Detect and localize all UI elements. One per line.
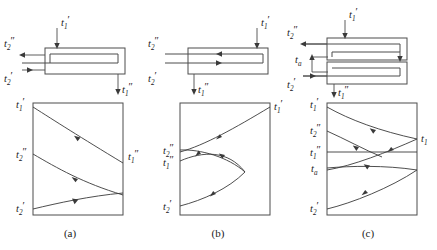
panel-c-curve-t2-prime-marker <box>362 190 368 195</box>
panel-c-pass-connector-arrowhead <box>397 56 402 62</box>
panel-a-chart-label-t1-dprime: t1″ <box>128 148 139 164</box>
panel-c-lower-shell <box>327 62 407 84</box>
panel-c-chart-label-t1-prime: t1′ <box>310 96 319 112</box>
panel-c-inlet-lower-arrowhead <box>310 73 316 78</box>
panel-b-caption: (b) <box>212 227 225 240</box>
panel-a-outlet-bottom-arrowhead <box>115 89 120 95</box>
panel-b-label-inlet-top: t1′ <box>261 14 270 30</box>
panel-b-outlet-bottom-arrowhead <box>191 89 196 95</box>
panel-a-label-inlet-lower: t2′ <box>4 70 13 86</box>
panel-a: t1′ t2″ t2′ t1″ <box>4 14 139 240</box>
panel-c-chart-label-t1: t1 <box>421 133 428 147</box>
panel-a-inlet-lower-arrowhead <box>27 67 33 72</box>
panel-b: t1′ t2″ t2′ t1″ <box>148 14 283 240</box>
panel-a-label-outlet-bottom: t1″ <box>122 81 133 97</box>
panel-c-chart-box <box>327 103 417 215</box>
panel-a-chart-label-t1-prime: t1′ <box>16 96 25 112</box>
panel-c-chart: t1′ t2″ t1″ ta t2′ t1 <box>310 96 428 216</box>
panel-c-curve-t1-prime-marker <box>370 128 376 133</box>
panel-c-curve-t1-branch <box>327 139 417 170</box>
panel-a-label-outlet-upper: t2″ <box>4 35 15 51</box>
panel-b-label-outlet-bottom: t1″ <box>198 81 209 97</box>
panel-c-chart-label-t2-prime: t2′ <box>310 200 319 216</box>
panel-c-chart-label-t2-dprime: t2″ <box>310 122 321 138</box>
panel-c-label-outlet-bottom: t1″ <box>338 84 349 100</box>
panel-b-schematic: t1′ t2″ t2′ t1″ <box>148 14 270 97</box>
panel-b-chart-label-t2-prime: t2′ <box>163 198 172 214</box>
panel-a-schematic: t1′ t2″ t2′ t1″ <box>4 14 133 97</box>
panel-b-label-inlet-lower: t2′ <box>148 70 157 86</box>
panel-a-curve-t1 <box>33 107 123 163</box>
panel-a-chart-label-t2-prime: t2′ <box>16 200 25 216</box>
panel-c-upper-tube <box>303 44 400 57</box>
panel-b-flow-upper-arrowhead <box>216 51 222 56</box>
panel-a-chart: t1′ t2″ t2′ t1″ <box>16 96 139 216</box>
panel-c-label-inlet-lower: t2′ <box>287 76 296 92</box>
panel-b-curve-t2-lower <box>180 172 245 206</box>
panel-a-curve-t2-in <box>33 193 123 209</box>
panel-b-shell-outline <box>188 48 268 74</box>
panel-c-curve-t1-prime <box>327 107 417 139</box>
panel-b-tube-path <box>165 54 263 63</box>
panel-a-label-inlet-top: t1′ <box>61 14 70 30</box>
panel-a-chart-label-t2-dprime: t2″ <box>16 146 27 162</box>
panel-a-outlet-upper-arrowhead <box>19 52 25 57</box>
panel-c-label-inlet-top: t1′ <box>349 6 358 22</box>
heat-exchanger-temperature-figure: t1′ t2″ t2′ t1″ <box>0 0 437 250</box>
panel-b-curve-t1-rising <box>180 107 270 152</box>
panel-b-chart-label-t1-prime: t1′ <box>274 98 283 114</box>
panel-b-flow-lower-arrowhead <box>216 60 222 65</box>
panel-c-outlet-bottom-arrowhead <box>331 92 336 98</box>
panel-b-label-outlet-upper: t2″ <box>148 35 159 51</box>
panel-a-chart-box <box>33 103 123 215</box>
panel-c-curve-ta-marker <box>364 164 370 169</box>
panel-b-curve-t2-lower-marker <box>210 191 216 196</box>
panel-c-schematic: t1′ t2″ ta t2′ t1″ <box>287 6 407 100</box>
figure-canvas: t1′ t2″ t2′ t1″ <box>0 0 437 250</box>
panel-c-upper-shell <box>327 38 407 60</box>
panel-b-curve-t1-dprime <box>180 154 245 172</box>
panel-c-chart-label-t1-dprime: t1″ <box>310 144 321 160</box>
panel-c-label-outlet-upper: t2″ <box>287 24 298 40</box>
panel-b-chart: t2″ t1″ t2′ t1′ <box>163 98 283 215</box>
panel-a-curve-t2-out <box>33 154 123 195</box>
panel-c-curve-t1-branch-marker <box>388 147 394 152</box>
panel-c-caption: (c) <box>362 227 375 240</box>
panel-b-curve-t2-upper <box>180 150 245 172</box>
panel-c: t1′ t2″ ta t2′ t1″ <box>287 6 428 240</box>
panel-a-caption: (a) <box>64 227 77 240</box>
panel-c-curve-t2-dprime <box>327 131 382 157</box>
panel-c-label-intermediate: ta <box>295 54 302 68</box>
panel-c-outlet-upper-arrowhead <box>300 41 306 46</box>
panel-c-chart-label-ta: ta <box>311 163 318 177</box>
panel-a-shell-outline <box>45 48 125 74</box>
panel-c-curve-t2-prime <box>327 170 417 209</box>
